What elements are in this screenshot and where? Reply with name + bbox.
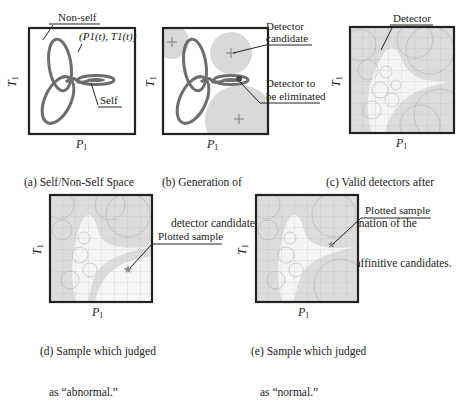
caption-e: (e) Sample which judged as “normal.” xyxy=(251,318,366,400)
plotted-sample-label: Plotted sample xyxy=(365,204,430,216)
y-axis-label: T1 xyxy=(235,244,250,255)
star-marker-icon: ★ xyxy=(327,239,336,250)
detector-field xyxy=(252,191,366,311)
